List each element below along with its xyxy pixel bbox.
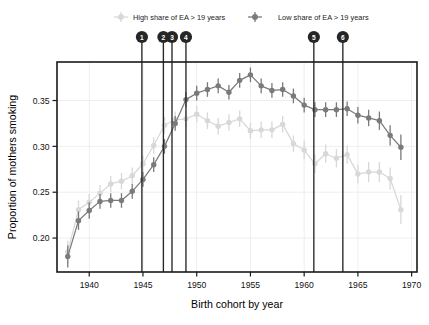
data-point bbox=[205, 87, 210, 92]
data-point bbox=[248, 128, 253, 133]
data-point bbox=[387, 176, 392, 181]
data-point bbox=[366, 169, 371, 174]
data-point bbox=[377, 118, 382, 123]
data-point bbox=[258, 127, 263, 132]
y-tick-label: 0.20 bbox=[33, 233, 50, 243]
error-bars bbox=[68, 106, 401, 263]
data-point bbox=[194, 112, 199, 117]
data-point bbox=[366, 115, 371, 120]
error-bars bbox=[68, 68, 401, 268]
data-point bbox=[119, 198, 124, 203]
data-point bbox=[301, 102, 306, 107]
data-point bbox=[398, 145, 403, 150]
data-point bbox=[151, 143, 156, 148]
event-marker-label: 5 bbox=[312, 34, 316, 41]
data-point bbox=[130, 189, 135, 194]
data-point bbox=[334, 156, 339, 161]
data-point bbox=[301, 147, 306, 152]
y-tick-label: 0.35 bbox=[33, 96, 50, 106]
data-point bbox=[355, 171, 360, 176]
x-tick-label: 1960 bbox=[295, 280, 314, 290]
x-tick-label: 1965 bbox=[348, 280, 367, 290]
data-point bbox=[140, 177, 145, 182]
series-2 bbox=[65, 68, 404, 268]
legend-item[interactable]: Low share of EA > 19 years bbox=[248, 12, 369, 22]
event-marker-label: 1 bbox=[140, 34, 144, 41]
x-axis-title: Birth cohort by year bbox=[191, 298, 283, 310]
data-point bbox=[215, 123, 220, 128]
series-line bbox=[68, 75, 401, 257]
data-point bbox=[269, 88, 274, 93]
x-tick-label: 1940 bbox=[80, 280, 99, 290]
data-point bbox=[76, 218, 81, 223]
data-point bbox=[119, 179, 124, 184]
legend-marker bbox=[118, 14, 124, 20]
data-point bbox=[248, 72, 253, 77]
data-point bbox=[344, 106, 349, 111]
x-tick-label: 1970 bbox=[402, 280, 421, 290]
data-point bbox=[334, 107, 339, 112]
gridlines bbox=[57, 62, 417, 272]
x-tick-label: 1950 bbox=[187, 280, 206, 290]
data-point bbox=[344, 152, 349, 157]
event-markers: 123456 bbox=[136, 31, 349, 272]
event-marker-label: 2 bbox=[162, 34, 166, 41]
data-point bbox=[226, 90, 231, 95]
data-point bbox=[97, 199, 102, 204]
chart-svg: 12345619401945195019551960196519700.200.… bbox=[0, 0, 429, 325]
data-point bbox=[205, 118, 210, 123]
legend-marker bbox=[252, 14, 258, 20]
data-point bbox=[291, 93, 296, 98]
data-point bbox=[151, 162, 156, 167]
chart-figure: 12345619401945195019551960196519700.200.… bbox=[0, 0, 429, 325]
x-tick-label: 1945 bbox=[133, 280, 152, 290]
data-point bbox=[312, 107, 317, 112]
data-point bbox=[108, 181, 113, 186]
data-point bbox=[323, 107, 328, 112]
series-1 bbox=[65, 106, 404, 263]
plot-frame bbox=[57, 62, 417, 272]
event-marker-label: 4 bbox=[184, 34, 188, 41]
data-point bbox=[226, 120, 231, 125]
data-point bbox=[323, 151, 328, 156]
data-point bbox=[291, 141, 296, 146]
legend-label: Low share of EA > 19 years bbox=[278, 13, 369, 22]
data-point bbox=[215, 83, 220, 88]
legend-item[interactable]: High share of EA > 19 years bbox=[114, 12, 226, 22]
data-point bbox=[280, 122, 285, 127]
data-point bbox=[387, 133, 392, 138]
data-point bbox=[65, 254, 70, 259]
data-point bbox=[140, 161, 145, 166]
event-marker-label: 6 bbox=[341, 34, 345, 41]
data-point bbox=[130, 173, 135, 178]
data-point bbox=[162, 123, 167, 128]
event-marker-label: 3 bbox=[170, 34, 174, 41]
data-point bbox=[258, 83, 263, 88]
data-point bbox=[312, 161, 317, 166]
data-point bbox=[355, 112, 360, 117]
data-point bbox=[173, 121, 178, 126]
data-point bbox=[398, 207, 403, 212]
series-line bbox=[68, 114, 401, 252]
y-axis-title: Proportion of mothers smoking bbox=[6, 95, 18, 239]
data-point bbox=[377, 169, 382, 174]
chart-legend: High share of EA > 19 yearsLow share of … bbox=[114, 12, 369, 22]
data-point bbox=[237, 78, 242, 83]
data-point bbox=[269, 127, 274, 132]
data-point bbox=[87, 208, 92, 213]
legend-label: High share of EA > 19 years bbox=[133, 13, 226, 22]
y-tick-label: 0.30 bbox=[33, 142, 50, 152]
data-point bbox=[108, 198, 113, 203]
data-point bbox=[194, 90, 199, 95]
data-point bbox=[162, 144, 167, 149]
data-point bbox=[280, 87, 285, 92]
x-tick-label: 1955 bbox=[241, 280, 260, 290]
data-point bbox=[237, 116, 242, 121]
y-tick-label: 0.25 bbox=[33, 187, 50, 197]
